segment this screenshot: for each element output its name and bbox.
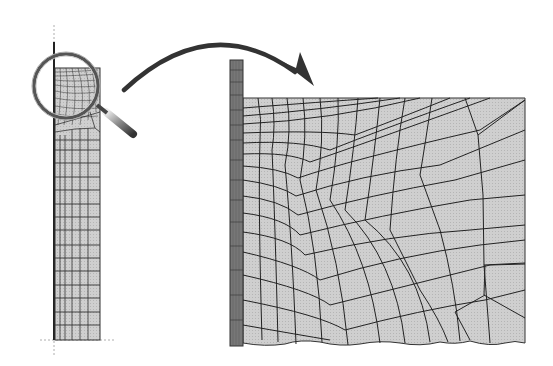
diagram-canvas: Finite element mesh refinement illustrat…: [0, 0, 553, 366]
magnifier-handle: [106, 112, 133, 134]
left-column-mesh: [40, 25, 115, 355]
zoom-arrow-icon: [124, 45, 314, 90]
right-enlarged-mesh: [230, 60, 525, 346]
